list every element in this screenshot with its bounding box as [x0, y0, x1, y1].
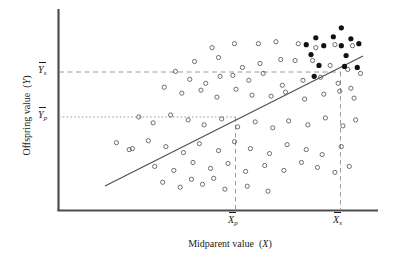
data-point-unselected [247, 78, 251, 82]
data-point-unselected [162, 85, 166, 89]
data-point-unselected [333, 170, 337, 174]
data-point-unselected [299, 160, 303, 164]
data-point-selected [308, 52, 313, 57]
data-point-unselected [314, 46, 318, 50]
data-point-unselected [151, 121, 155, 125]
scatter-plot-figure: Offspring value (Y) Midparent value (X) … [0, 0, 395, 259]
y-axis-variable: Y [21, 79, 32, 85]
data-point-selected [313, 35, 318, 40]
open-point-group [114, 40, 362, 194]
data-point-unselected [354, 118, 358, 122]
data-point-unselected [279, 57, 283, 61]
y-axis-title: Offspring value (Y) [21, 46, 32, 186]
data-point-unselected [180, 91, 184, 95]
data-point-unselected [234, 87, 238, 91]
data-point-unselected [178, 185, 182, 189]
data-point-unselected [200, 182, 204, 186]
data-point-unselected [245, 184, 249, 188]
data-point-unselected [146, 139, 150, 143]
data-point-unselected [210, 46, 214, 50]
data-point-unselected [271, 126, 275, 130]
data-point-unselected [274, 40, 278, 44]
y-tick-ys-subscript: s [44, 69, 47, 77]
data-point-selected [342, 64, 347, 69]
data-point-unselected [226, 161, 230, 165]
data-point-unselected [169, 113, 173, 117]
y-axis-title-paren: (Y) [21, 75, 32, 90]
data-point-unselected [244, 169, 248, 173]
data-point-unselected [311, 58, 315, 62]
data-point-unselected [204, 81, 208, 85]
data-point-unselected [250, 93, 254, 97]
data-point-unselected [285, 143, 289, 147]
regression-line [105, 56, 363, 186]
data-point-selected [331, 34, 336, 39]
data-point-selected [344, 53, 349, 58]
data-point-selected [339, 43, 344, 48]
x-axis-title-paren: (X) [257, 238, 272, 249]
data-point-unselected [296, 42, 300, 46]
data-point-selected [312, 74, 317, 79]
x-tick-label-xs: Xs [333, 214, 342, 227]
x-axis-variable: X [262, 238, 268, 249]
data-point-unselected [267, 151, 271, 155]
data-point-unselected [303, 97, 307, 101]
x-axis-title-text: Midparent value [188, 238, 254, 249]
data-point-unselected [223, 187, 227, 191]
data-point-unselected [232, 42, 236, 46]
data-point-unselected [323, 116, 327, 120]
data-point-selected [316, 63, 321, 68]
data-point-unselected [212, 176, 216, 180]
data-point-unselected [339, 145, 343, 149]
data-point-unselected [282, 168, 286, 172]
data-point-unselected [208, 166, 212, 170]
data-point-unselected [358, 71, 362, 75]
data-point-unselected [350, 44, 354, 48]
data-point-unselected [338, 89, 342, 93]
data-point-unselected [301, 78, 305, 82]
data-point-unselected [192, 59, 196, 63]
data-point-unselected [263, 163, 267, 167]
data-point-unselected [349, 86, 353, 90]
data-point-unselected [328, 63, 332, 67]
data-point-selected [321, 43, 326, 48]
y-axis-title-text: Offspring value [21, 93, 32, 156]
data-point-unselected [172, 168, 176, 172]
data-point-unselected [283, 90, 287, 94]
data-point-unselected [161, 180, 165, 184]
data-point-unselected [269, 94, 273, 98]
data-point-unselected [352, 96, 356, 100]
data-point-unselected [322, 92, 326, 96]
y-tick-label-ys: Ys [38, 64, 46, 77]
data-point-unselected [181, 150, 185, 154]
data-point-unselected [336, 81, 340, 85]
data-point-unselected [240, 65, 244, 69]
data-point-unselected [220, 117, 224, 121]
data-point-unselected [320, 152, 324, 156]
data-point-unselected [287, 119, 291, 123]
data-point-unselected [114, 141, 118, 145]
y-tick-yp-subscript: p [44, 114, 48, 122]
data-point-unselected [153, 164, 157, 168]
data-point-unselected [231, 73, 235, 77]
data-point-unselected [218, 74, 222, 78]
data-point-unselected [304, 148, 308, 152]
data-point-unselected [215, 95, 219, 99]
data-point-selected [348, 36, 353, 41]
data-point-unselected [258, 61, 262, 65]
data-point-unselected [199, 88, 203, 92]
data-point-unselected [191, 160, 195, 164]
y-tick-label-yp: Yp [38, 109, 47, 122]
data-point-unselected [197, 142, 201, 146]
data-point-unselected [341, 124, 345, 128]
data-point-unselected [188, 77, 192, 81]
data-point-unselected [216, 55, 220, 59]
data-point-unselected [256, 42, 260, 46]
data-point-selected [355, 65, 360, 70]
data-point-unselected [186, 118, 190, 122]
y-tick-ys-symbol: Y [38, 64, 44, 75]
data-point-unselected [253, 120, 257, 124]
x-tick-xs-symbol: X [333, 214, 339, 225]
data-point-selected [356, 41, 361, 46]
data-point-unselected [333, 43, 337, 47]
